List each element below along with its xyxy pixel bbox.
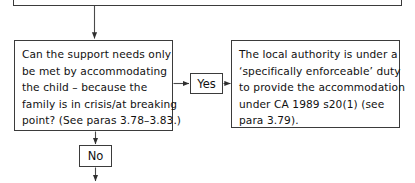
outcome-line-1: The local authority is under a xyxy=(239,46,393,63)
question-line-3: the child – because the xyxy=(22,79,166,96)
outcome-line-3: to provide the accommodation xyxy=(239,79,393,96)
outcome-text: The local authority is under a ‘specific… xyxy=(239,46,393,129)
branch-label-no: No xyxy=(79,145,112,167)
question-text: Can the support needs only be met by acc… xyxy=(22,46,166,129)
outcome-line-2: ‘specifically enforceable’ duty xyxy=(239,63,393,80)
question-line-2: be met by accommodating xyxy=(22,63,166,80)
branch-label-no-text: No xyxy=(88,149,104,163)
flowchart-diagram: Can the support needs only be met by acc… xyxy=(0,0,415,183)
branch-label-yes-text: Yes xyxy=(197,77,216,91)
outcome-line-5: para 3.79). xyxy=(239,112,393,129)
question-line-5: point? (See paras 3.78–3.83.) xyxy=(22,112,166,129)
branch-label-yes: Yes xyxy=(190,73,223,94)
question-line-1: Can the support needs only xyxy=(22,46,166,63)
question-line-4: family is in crisis/at breaking xyxy=(22,96,166,113)
outcome-line-4: under CA 1989 s20(1) (see xyxy=(239,96,393,113)
local-authority-duty-box: The local authority is under a ‘specific… xyxy=(231,40,400,128)
support-needs-question-box: Can the support needs only be met by acc… xyxy=(14,40,173,131)
preceding-step-box xyxy=(13,0,402,6)
